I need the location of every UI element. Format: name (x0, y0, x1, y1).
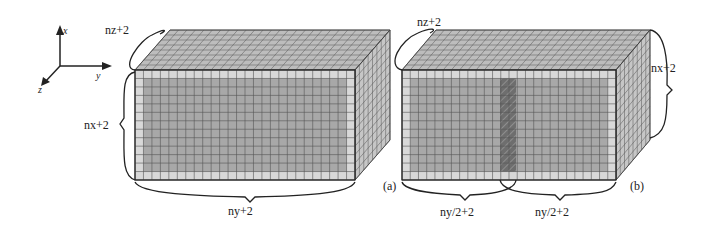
axis-y-label: y (95, 70, 101, 81)
figure: x y z nz+2 nx+2 ny+2 (a) nz+2 nx+2 ny/2+… (0, 0, 717, 235)
grid-block-a (135, 30, 390, 180)
panel-a-ny-label: ny+2 (228, 204, 253, 218)
grid-block-b (402, 30, 650, 180)
panel-b-nx-label: nx+2 (651, 61, 676, 75)
axis-z-label: z (37, 84, 42, 95)
coordinate-axes: x y z (37, 25, 112, 95)
panel-a-caption: (a) (383, 179, 396, 193)
panel-b-caption: (b) (630, 179, 644, 193)
panel-b-ny-left-label: ny/2+2 (440, 205, 474, 219)
axis-x-label: x (62, 25, 68, 36)
panel-a-nx-label: nx+2 (84, 118, 109, 132)
panel-b-ny-right-label: ny/2+2 (535, 205, 569, 219)
panel-b-nz-label: nz+2 (417, 15, 441, 29)
panel-a-nz-label: nz+2 (105, 23, 129, 37)
